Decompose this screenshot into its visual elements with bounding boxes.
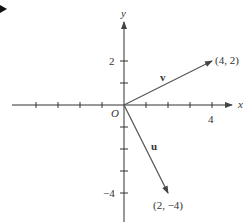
x-axis-label: x: [237, 98, 243, 110]
x-tick-label-4: 4: [208, 113, 214, 125]
vector-diagram: y x O 4 2 −4 v (4, 2) u (2, −4): [0, 0, 251, 224]
vector-v-label: v: [160, 71, 166, 83]
y-tick-label-neg4: −4: [103, 187, 115, 199]
origin-label: O: [111, 107, 119, 119]
vector-v-endpoint-label: (4, 2): [215, 54, 239, 67]
y-tick-label-2: 2: [109, 55, 115, 67]
vector-u: [124, 105, 168, 193]
y-axis-label: y: [120, 7, 126, 19]
vector-v: [124, 61, 212, 105]
vector-u-endpoint-label: (2, −4): [153, 199, 183, 212]
vector-u-label: u: [151, 140, 157, 152]
bullet-triangle-icon: [0, 5, 7, 13]
